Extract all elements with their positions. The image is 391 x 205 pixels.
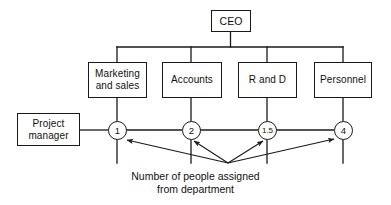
org-chart-diagram: CEO Marketing and sales Accounts R and D… (0, 0, 391, 205)
ceo-label: CEO (219, 15, 242, 27)
department-node-personnel: Personnel (314, 62, 372, 98)
assignment-count-node-personnel: 4 (334, 121, 353, 140)
callout-caption-line-2: from department (0, 183, 391, 196)
department-node-accounts: Accounts (162, 62, 222, 98)
callout-arrow-to-node-1 (194, 141, 228, 163)
assignment-count-value: 1 (115, 126, 120, 136)
department-node-marketing-and-sales: Marketing and sales (88, 62, 147, 98)
assignment-count-node-r-and-d: 1.5 (258, 121, 277, 140)
assignment-count-value: 1.5 (262, 127, 273, 135)
department-label: Accounts (171, 74, 213, 86)
callout-caption-line-1: Number of people assigned (0, 170, 391, 183)
callout-caption: Number of people assigned from departmen… (0, 170, 391, 196)
department-label: Personnel (320, 74, 366, 86)
assignment-count-value: 4 (341, 126, 346, 136)
project-manager-label: Project manager (28, 118, 68, 142)
assignment-count-value: 2 (189, 126, 194, 136)
department-node-r-and-d: R and D (238, 62, 297, 98)
department-label: Marketing and sales (95, 68, 140, 92)
callout-arrow-to-node-0 (127, 140, 228, 163)
assignment-count-node-marketing-and-sales: 1 (108, 121, 127, 140)
ceo-node: CEO (211, 10, 251, 32)
department-label: R and D (249, 74, 286, 86)
assignment-count-node-accounts: 2 (182, 121, 201, 140)
project-manager-node: Project manager (17, 113, 80, 146)
callout-arrow-to-node-2 (228, 141, 263, 163)
callout-arrow-to-node-3 (228, 139, 334, 163)
